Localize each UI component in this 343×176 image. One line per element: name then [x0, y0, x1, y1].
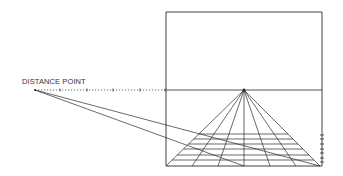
- diagonal: [35, 90, 244, 166]
- distance-point-label: DISTANCE POINT: [22, 77, 86, 86]
- ray: [244, 90, 296, 166]
- ray: [244, 90, 320, 166]
- orthogonal-rays: [166, 90, 320, 166]
- measure-ticks: [60, 89, 324, 163]
- vanishing-point: [242, 88, 245, 91]
- perspective-diagram: [0, 0, 343, 176]
- grid-transversals: [172, 134, 314, 160]
- distance-point: [34, 89, 36, 91]
- ray: [218, 90, 244, 166]
- ray: [244, 90, 270, 166]
- ray: [192, 90, 244, 166]
